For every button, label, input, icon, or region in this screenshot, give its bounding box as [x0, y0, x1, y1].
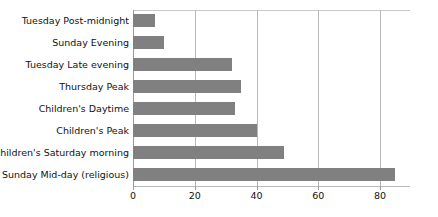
x-tick-mark-20	[195, 186, 196, 190]
plot-area	[133, 10, 410, 186]
bar	[133, 36, 164, 49]
category-axis-labels: Tuesday Post-midnightSunday EveningTuesd…	[0, 10, 131, 186]
bar	[133, 58, 232, 71]
bar-row	[133, 10, 410, 32]
bar-row	[133, 54, 410, 76]
category-label: Sunday Evening	[52, 32, 129, 54]
x-axis-line	[133, 186, 410, 187]
x-axis-tick-labels: 020406080	[0, 188, 438, 208]
x-tick-mark-60	[318, 186, 319, 190]
bar	[133, 14, 155, 27]
x-tick-label-60: 60	[312, 190, 324, 201]
bar	[133, 102, 235, 115]
category-label: Children's Peak	[56, 120, 129, 142]
x-tick-mark-80	[380, 186, 381, 190]
category-label: Sunday Mid-day (religious)	[2, 164, 129, 186]
bar-row	[133, 32, 410, 54]
bar-row	[133, 120, 410, 142]
x-tick-label-40: 40	[250, 190, 262, 201]
bar-row	[133, 76, 410, 98]
category-label: Children's Daytime	[39, 98, 129, 120]
x-tick-label-80: 80	[374, 190, 386, 201]
bar	[133, 168, 395, 181]
bar-row	[133, 164, 410, 186]
x-tick-label-0: 0	[130, 190, 136, 201]
category-label: Children's Saturday morning	[0, 142, 129, 164]
bar-row	[133, 98, 410, 120]
bar-chart: Tuesday Post-midnightSunday EveningTuesd…	[0, 0, 438, 217]
bar	[133, 80, 241, 93]
category-label: Tuesday Post-midnight	[22, 10, 129, 32]
x-tick-mark-0	[133, 186, 134, 190]
category-label: Tuesday Late evening	[26, 54, 129, 76]
category-label: Thursday Peak	[59, 76, 129, 98]
x-tick-label-20: 20	[189, 190, 201, 201]
bar-row	[133, 142, 410, 164]
bars-layer	[133, 10, 410, 186]
bar	[133, 124, 257, 137]
x-tick-mark-40	[257, 186, 258, 190]
bar	[133, 146, 284, 159]
